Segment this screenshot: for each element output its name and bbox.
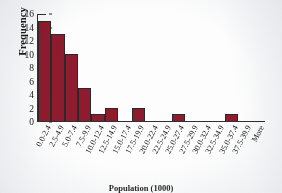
- y-tick-label: 16: [14, 9, 34, 19]
- y-tick-label: 8: [14, 63, 34, 73]
- x-tick-slot: 2.5-4.9: [51, 123, 64, 181]
- bar-slot: [225, 14, 238, 121]
- bar-slot: [118, 14, 131, 121]
- x-tick-slot: More: [252, 123, 265, 181]
- x-axis-tick-labels: 0.0-2.42.5-4.95.0-7.47.5-9.910.0-12.412.…: [38, 123, 265, 181]
- bar-slot: [91, 14, 104, 121]
- bar: [51, 34, 64, 121]
- x-tick-slot: 37.5-39.9: [238, 123, 251, 181]
- bar: [172, 114, 185, 121]
- bar: [105, 108, 118, 121]
- bar-slot: [65, 14, 78, 121]
- bar-slot: [172, 14, 185, 121]
- bar-slot: [185, 14, 198, 121]
- x-tick-slot: 5.0-7.4: [65, 123, 78, 181]
- y-tick-label: 2: [14, 104, 34, 114]
- y-axis-tick-labels: 0246810121416: [14, 14, 34, 122]
- bar-series: [38, 14, 265, 121]
- bar-slot: [38, 14, 51, 121]
- bar: [65, 54, 78, 121]
- x-tick-label: More: [250, 124, 266, 144]
- histogram-figure: Frequency 0246810121416 0.0-2.42.5-4.95.…: [0, 0, 282, 193]
- bar-slot: [51, 14, 64, 121]
- y-tick-label: 10: [14, 50, 34, 60]
- bar-slot: [132, 14, 145, 121]
- bar: [132, 108, 145, 121]
- y-tick-label: 12: [14, 36, 34, 46]
- bar-slot: [252, 14, 265, 121]
- bar-slot: [198, 14, 211, 121]
- bar: [91, 114, 104, 121]
- bar-slot: [105, 14, 118, 121]
- y-tick-label: 6: [14, 77, 34, 87]
- bar: [225, 114, 238, 121]
- bar-slot: [158, 14, 171, 121]
- y-tick-label: 14: [14, 23, 34, 33]
- y-tick-label: 0: [14, 117, 34, 127]
- y-tick-label: 4: [14, 90, 34, 100]
- bar: [78, 88, 91, 121]
- plot-area: [37, 14, 265, 122]
- x-axis-line: [37, 121, 265, 122]
- bar-slot: [78, 14, 91, 121]
- x-axis-title: Population (1000): [0, 183, 282, 193]
- bar-slot: [238, 14, 251, 121]
- bar: [38, 21, 51, 121]
- bar-slot: [145, 14, 158, 121]
- x-tick-slot: 0.0-2.4: [38, 123, 51, 181]
- bar-slot: [212, 14, 225, 121]
